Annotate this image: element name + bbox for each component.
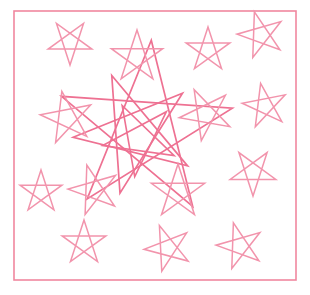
drawing-canvas xyxy=(0,0,310,295)
star-scatter-svg xyxy=(0,0,310,295)
